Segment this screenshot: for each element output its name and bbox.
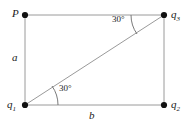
side-label-a: a: [12, 52, 18, 63]
vertex-dot-q1: [22, 102, 28, 108]
vertex-dot-p: [22, 12, 28, 18]
vertex-dot-q2: [161, 102, 167, 108]
vertex-label-q3: q3: [171, 9, 180, 23]
vertex-label-q3-sub: 3: [177, 15, 181, 23]
vertex-label-q2-sub: 2: [177, 105, 181, 113]
vertex-label-q2: q2: [171, 99, 180, 113]
angle-label-q1: 30°: [59, 84, 72, 93]
diagonal-q1-q3: [25, 15, 164, 105]
angle-arc-q1: [52, 86, 58, 105]
vertex-label-p-text: P: [12, 7, 19, 19]
vertex-label-q1-sub: 1: [13, 105, 17, 113]
angle-arc-q3: [131, 15, 137, 34]
figure-canvas: [0, 0, 191, 126]
vertex-label-p: P: [12, 8, 19, 19]
angle-label-q3: 30°: [112, 15, 125, 24]
geometry-figure: P q3 q1 q2 a b 30° 30°: [0, 0, 191, 126]
vertex-dot-q3: [161, 12, 167, 18]
side-label-b: b: [89, 110, 95, 121]
vertex-label-q1: q1: [7, 99, 16, 113]
